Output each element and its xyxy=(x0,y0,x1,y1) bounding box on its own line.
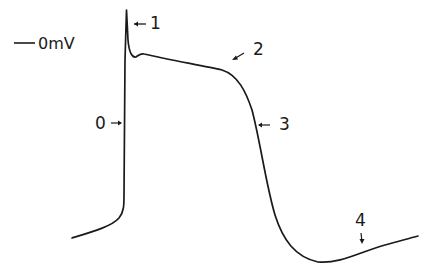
phase-1-arrow-icon xyxy=(134,22,146,27)
phase-0-arrow-icon xyxy=(111,121,122,126)
action-potential-trace xyxy=(72,10,418,262)
phase-0-label: 0 xyxy=(95,115,106,132)
phase-4-label: 4 xyxy=(355,212,366,229)
zero-mv-label: 0mV xyxy=(38,35,75,52)
figure-caption xyxy=(0,262,432,271)
phase-3-label: 3 xyxy=(279,116,290,133)
phase-2-arrow-icon xyxy=(232,53,244,60)
phase-4-arrow-icon xyxy=(360,233,365,244)
phase-3-arrow-icon xyxy=(258,123,270,128)
phase-1-label: 1 xyxy=(150,15,161,32)
phase-2-label: 2 xyxy=(253,41,264,58)
